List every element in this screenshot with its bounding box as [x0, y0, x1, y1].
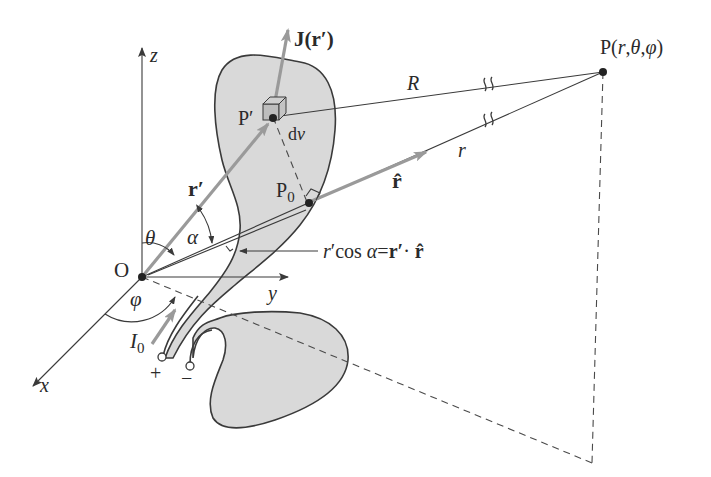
dv-label: dv — [288, 124, 305, 144]
projection-vertical-dashed — [592, 72, 603, 463]
x-axis — [33, 277, 142, 386]
r-label: r — [458, 139, 466, 161]
J-label: J(r′) — [294, 27, 334, 51]
phi-label: φ — [130, 287, 142, 311]
origin-label: O — [114, 258, 129, 282]
minus-label: − — [181, 367, 192, 389]
current-distribution-diagram: + − z y x J(r′) P′ dv R r P(r,θ,φ) — [0, 0, 711, 477]
brace — [226, 246, 233, 251]
origin-dot — [138, 273, 146, 281]
projection-formula: r′cos α=r′· r̂ — [323, 240, 424, 262]
I0-label: I0 — [129, 329, 145, 356]
r-hat-label: r̂ — [392, 168, 402, 193]
P-prime-label: P′ — [238, 107, 254, 129]
plus-label: + — [150, 362, 161, 384]
z-axis-label: z — [149, 44, 158, 66]
break-mark-R — [484, 77, 493, 91]
conductor-lower-blob — [193, 312, 348, 428]
foot-point-dot — [305, 199, 313, 207]
terminal-plus — [158, 353, 166, 361]
r-prime-label: r′ — [188, 176, 204, 201]
projection-xy-dashed — [142, 277, 592, 463]
field-point-dot — [599, 68, 607, 76]
alpha-label: α — [187, 225, 199, 249]
lead-minus — [190, 330, 212, 364]
field-point-label: P(r,θ,φ) — [600, 36, 663, 59]
source-point-dot — [269, 114, 277, 122]
current-I0-arrow — [152, 310, 175, 344]
alpha-arc — [200, 210, 212, 243]
theta-label: θ — [145, 226, 155, 250]
R-label: R — [406, 72, 419, 94]
x-axis-label: x — [39, 374, 49, 396]
y-axis-label: y — [266, 282, 277, 305]
